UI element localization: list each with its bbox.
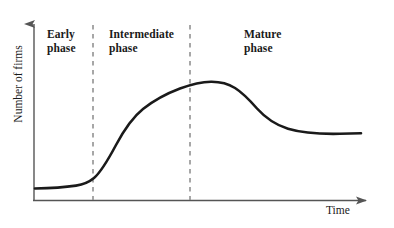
mature-phase-label-line1: Mature: [244, 27, 281, 41]
early-phase-label: Early phase: [47, 27, 76, 55]
intermediate-phase-label-line2: phase: [109, 41, 174, 55]
early-phase-label-line2: phase: [47, 41, 76, 55]
industry-life-cycle-chart: Number of firms Time Early phase Interme…: [0, 0, 394, 228]
y-axis-label: Number of firms: [12, 24, 24, 144]
mature-phase-label-line2: phase: [244, 41, 281, 55]
intermediate-phase-label: Intermediate phase: [109, 27, 174, 55]
early-phase-label-line1: Early: [47, 27, 76, 41]
intermediate-phase-label-line1: Intermediate: [109, 27, 174, 41]
mature-phase-label: Mature phase: [244, 27, 281, 55]
x-axis-label: Time: [326, 204, 350, 216]
life-cycle-curve: [35, 82, 361, 189]
